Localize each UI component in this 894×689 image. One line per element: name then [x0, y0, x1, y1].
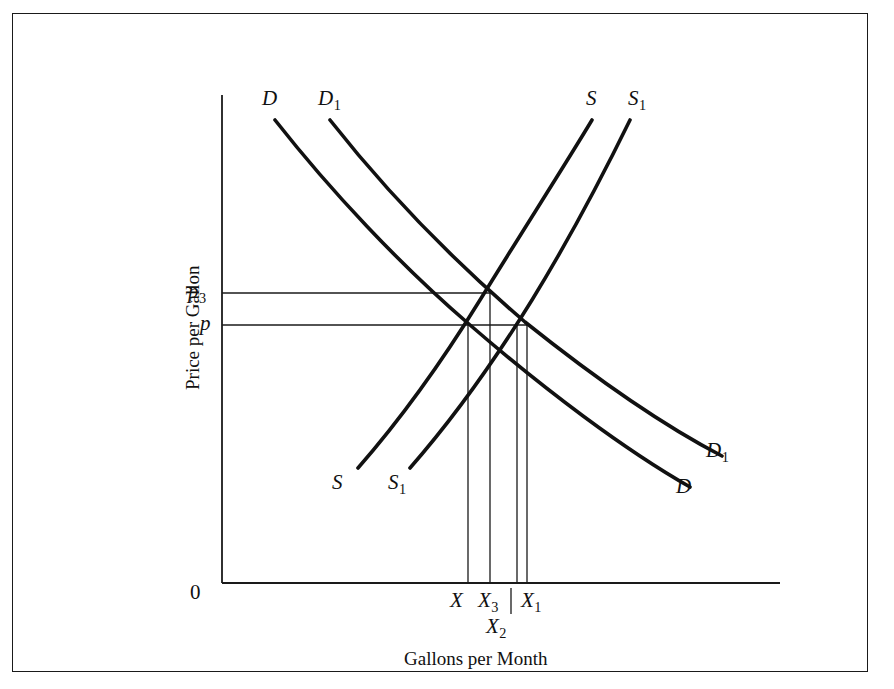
demand-curve-d [275, 120, 690, 487]
curve-label-s1-top-sub: 1 [639, 97, 647, 113]
quantity-tick-x: X [450, 590, 463, 611]
curve-label-d1-top: D1 [318, 88, 341, 112]
curve-label-s-top: S [586, 88, 597, 109]
quantity-tick-x1: X1 [521, 590, 541, 614]
curve-label-d1-top-base: D [318, 86, 333, 110]
quantity-tick-x1-base: X [521, 588, 534, 612]
quantity-tick-x3: X3 [478, 590, 498, 614]
curve-label-d1-right: D1 [706, 440, 729, 464]
curve-label-s1-top-base: S [628, 86, 639, 110]
curve-label-s1-bottom-sub: 1 [399, 481, 407, 497]
supply-curve-s1 [410, 120, 630, 468]
curve-label-s1-top: S1 [628, 88, 646, 112]
curve-label-d-right: D [676, 476, 691, 497]
quantity-tick-x2-base: X [486, 614, 499, 638]
curve-label-d1-top-sub: 1 [333, 97, 341, 113]
demand-curve-d1 [330, 120, 722, 456]
quantity-tick-x2-sub: 2 [499, 625, 507, 641]
curve-label-s1-bottom: S1 [388, 472, 406, 496]
curve-label-d-top: D [262, 88, 277, 109]
curve-label-s-bottom: S [332, 472, 343, 493]
quantity-tick-x3-sub: 3 [491, 599, 499, 615]
quantity-tick-x2: X2 [486, 616, 506, 640]
curve-label-d1-right-base: D [706, 438, 721, 462]
supply-curve-s [358, 120, 592, 468]
quantity-tick-x3-base: X [478, 588, 491, 612]
curve-label-s1-bottom-base: S [388, 470, 399, 494]
y-axis-title: Price per Gallon [182, 265, 204, 390]
origin-label: 0 [190, 582, 201, 603]
quantity-tick-x1-sub: 1 [534, 599, 542, 615]
supply-demand-plot [0, 0, 894, 689]
x-axis-title: Gallons per Month [404, 648, 548, 670]
curve-label-d1-right-sub: 1 [721, 449, 729, 465]
